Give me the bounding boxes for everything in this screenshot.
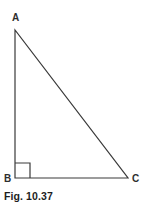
- figure-caption: Fig. 10.37: [4, 191, 53, 203]
- right-angle-marker: [15, 163, 30, 178]
- triangle-outline: [15, 30, 128, 178]
- vertex-label-b: B: [4, 174, 11, 184]
- vertex-label-a: A: [12, 13, 19, 23]
- right-triangle-diagram: [0, 0, 145, 190]
- vertex-label-c: C: [132, 174, 139, 184]
- figure-container: A B C Fig. 10.37: [0, 0, 145, 210]
